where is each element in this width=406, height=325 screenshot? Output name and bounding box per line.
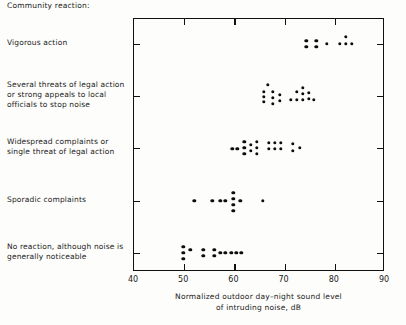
- x-tick-label-0: 40: [128, 275, 138, 284]
- data-point: [255, 152, 258, 155]
- data-point: [232, 197, 235, 200]
- data-point: [243, 146, 246, 149]
- y-tick-2: [134, 148, 140, 149]
- data-point: [295, 98, 298, 101]
- data-point: [219, 199, 222, 202]
- data-point: [279, 141, 282, 144]
- data-point: [315, 45, 318, 48]
- x-tick-label-3: 70: [279, 275, 289, 284]
- data-point: [301, 92, 304, 95]
- data-point: [224, 199, 227, 202]
- x-tick-bottom-2: [234, 264, 235, 270]
- data-point: [181, 245, 184, 248]
- data-point: [211, 199, 214, 202]
- data-point: [213, 248, 216, 251]
- y-tick-right-1: [377, 96, 383, 97]
- data-point: [295, 90, 298, 93]
- category-label-3: Sporadic complaints: [7, 195, 129, 205]
- data-point: [301, 86, 304, 89]
- data-point: [267, 147, 270, 150]
- data-point: [261, 199, 264, 202]
- data-point: [230, 251, 233, 254]
- category-label-0: Vigorous action: [7, 38, 129, 48]
- x-tick-label-5: 90: [379, 275, 389, 284]
- data-point: [236, 147, 239, 150]
- data-point: [271, 96, 274, 99]
- x-tick-bottom-1: [184, 264, 185, 270]
- data-point: [249, 143, 252, 146]
- x-axis-title-line1: Normalized outdoor day–night sound level: [133, 292, 384, 303]
- data-point: [249, 149, 252, 152]
- data-point: [189, 248, 192, 251]
- y-tick-right-3: [377, 201, 383, 202]
- y-tick-1: [134, 96, 140, 97]
- data-point: [219, 251, 222, 254]
- data-point: [232, 203, 235, 206]
- data-point: [255, 146, 258, 149]
- data-point: [243, 152, 246, 155]
- data-point: [243, 140, 246, 143]
- x-tick-top-1: [184, 19, 185, 25]
- data-point: [344, 42, 347, 45]
- data-point: [240, 251, 243, 254]
- x-axis-title-line2: of intruding noise, dB: [133, 303, 384, 314]
- data-point: [271, 90, 274, 93]
- data-point: [304, 45, 307, 48]
- data-point: [202, 248, 205, 251]
- data-point: [255, 140, 258, 143]
- x-axis-title: Normalized outdoor day–night sound level…: [133, 292, 384, 313]
- data-point: [338, 42, 341, 45]
- data-point: [289, 98, 292, 101]
- category-label-4: No reaction, although noise is generally…: [7, 242, 129, 263]
- data-point: [262, 100, 265, 103]
- data-point: [307, 97, 310, 100]
- data-point: [344, 35, 347, 38]
- x-tick-label-2: 60: [228, 275, 238, 284]
- data-point: [291, 149, 294, 152]
- data-point: [266, 83, 269, 86]
- data-point: [181, 257, 184, 260]
- x-tick-top-3: [285, 19, 286, 25]
- data-point: [307, 91, 310, 94]
- data-point: [232, 209, 235, 212]
- y-tick-0: [134, 44, 140, 45]
- y-tick-3: [134, 201, 140, 202]
- data-point: [181, 251, 184, 254]
- data-point: [271, 102, 274, 105]
- data-point: [278, 99, 281, 102]
- data-point: [235, 251, 238, 254]
- category-label-2: Widespread complaints or single threat o…: [7, 137, 129, 158]
- data-point: [291, 142, 294, 145]
- data-point: [239, 199, 242, 202]
- data-point: [350, 42, 353, 45]
- data-point: [262, 95, 265, 98]
- x-tick-bottom-3: [285, 264, 286, 270]
- data-point: [298, 146, 301, 149]
- data-point: [325, 42, 328, 45]
- data-point: [315, 39, 318, 42]
- y-tick-right-0: [377, 44, 383, 45]
- data-point: [273, 147, 276, 150]
- data-point: [301, 98, 304, 101]
- x-tick-top-2: [234, 19, 235, 25]
- x-tick-bottom-4: [335, 264, 336, 270]
- data-point: [202, 254, 205, 257]
- x-tick-top-4: [335, 19, 336, 25]
- data-point: [213, 254, 216, 257]
- data-point: [304, 39, 307, 42]
- y-tick-4: [134, 253, 140, 254]
- x-tick-label-4: 80: [329, 275, 339, 284]
- y-tick-right-2: [377, 148, 383, 149]
- data-point: [232, 191, 235, 194]
- data-point: [312, 98, 315, 101]
- x-tick-label-1: 50: [178, 275, 188, 284]
- data-point: [267, 141, 270, 144]
- data-point: [231, 147, 234, 150]
- y-tick-right-4: [377, 253, 383, 254]
- data-point: [262, 90, 265, 93]
- category-axis-title: Community reaction:: [7, 1, 90, 10]
- data-point: [279, 147, 282, 150]
- data-point: [273, 141, 276, 144]
- data-point: [278, 93, 281, 96]
- category-label-1: Several threats of legal action or stron…: [7, 80, 129, 111]
